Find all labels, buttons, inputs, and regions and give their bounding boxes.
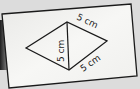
paper-card: [2, 4, 137, 88]
diagram-scene: 5 cm 5 cm 5 cm: [0, 0, 140, 89]
diagram-canvas: 5 cm 5 cm 5 cm: [0, 0, 140, 89]
label-diagonal: 5 cm: [56, 40, 66, 62]
